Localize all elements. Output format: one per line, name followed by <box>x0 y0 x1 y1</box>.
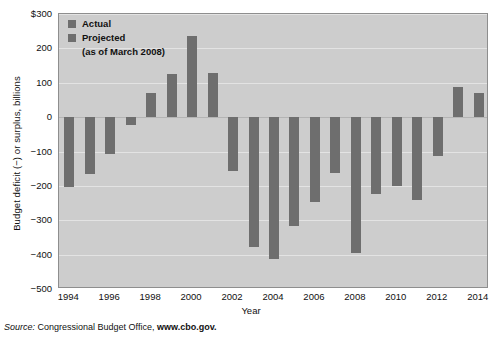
gridline <box>59 14 487 15</box>
x-tick-label: 1998 <box>140 291 161 302</box>
chart-legend: Actual Projected (as of March 2008) <box>68 18 165 57</box>
y-tick-label: −100 <box>4 145 52 156</box>
bar-1999 <box>167 74 177 117</box>
x-tick-label: 2008 <box>344 291 365 302</box>
bar-2009 <box>371 117 381 194</box>
bar-1994 <box>64 117 74 187</box>
bar-1997 <box>126 117 136 125</box>
bar-2011 <box>412 117 422 200</box>
gridline <box>59 83 487 84</box>
x-tick-label: 2012 <box>426 291 447 302</box>
bar-2005 <box>289 117 299 226</box>
x-tick-label: 2006 <box>303 291 324 302</box>
y-tick-label: 200 <box>4 42 52 53</box>
x-tick-label: 1994 <box>58 291 79 302</box>
bar-2012 <box>433 117 443 156</box>
source-note: Source: Congressional Budget Office, www… <box>4 322 216 332</box>
x-tick-label: 2010 <box>385 291 406 302</box>
legend-item-projected: Projected <box>68 32 165 43</box>
bar-2006 <box>310 117 320 202</box>
y-tick-label: −200 <box>4 179 52 190</box>
x-tick-label: 2000 <box>181 291 202 302</box>
bar-1995 <box>85 117 95 173</box>
bar-2003 <box>249 117 259 247</box>
legend-swatch-actual <box>68 20 76 28</box>
budget-deficit-chart-figure: Budget deficit (−) or surplus, billions … <box>0 0 502 339</box>
bar-2004 <box>269 117 279 259</box>
legend-label-projected: Projected <box>82 32 125 43</box>
legend-swatch-projected <box>68 34 76 42</box>
bar-2000 <box>187 36 197 117</box>
legend-sublabel-projected: (as of March 2008) <box>82 46 165 57</box>
x-tick-label: 2004 <box>262 291 283 302</box>
x-tick-label: 2014 <box>467 291 488 302</box>
legend-item-actual: Actual <box>68 18 165 29</box>
x-tick-label: 2002 <box>221 291 242 302</box>
bar-2013 <box>453 87 463 117</box>
bar-2008 <box>351 117 361 253</box>
bar-1996 <box>105 117 115 154</box>
y-tick-label: 0 <box>4 111 52 122</box>
y-tick-label: −400 <box>4 248 52 259</box>
x-axis-title: Year <box>0 305 502 316</box>
source-url: www.cbo.gov. <box>157 322 217 332</box>
legend-label-actual: Actual <box>82 18 111 29</box>
source-prefix: Source: <box>4 322 35 332</box>
bar-2010 <box>392 117 402 186</box>
y-tick-label: $300 <box>4 8 52 19</box>
bar-1998 <box>146 93 156 117</box>
x-tick-label: 1996 <box>99 291 120 302</box>
bar-2001 <box>208 73 218 117</box>
y-tick-label: −300 <box>4 214 52 225</box>
y-tick-label: 100 <box>4 76 52 87</box>
source-agency: Congressional Budget Office, <box>38 322 155 332</box>
bar-2007 <box>330 117 340 173</box>
bar-2002 <box>228 117 238 171</box>
y-tick-label: −500 <box>4 283 52 294</box>
bar-2014 <box>474 93 484 117</box>
